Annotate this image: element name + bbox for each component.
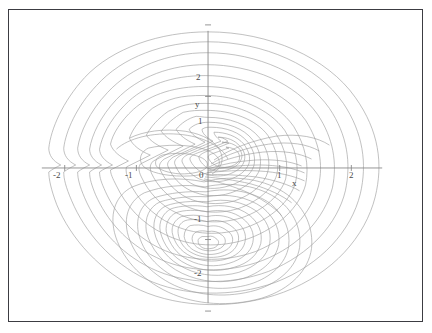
y-tick-label--1: -1 bbox=[194, 214, 202, 224]
contour-lower-09 bbox=[146, 195, 279, 281]
x-tick-label--1: -1 bbox=[125, 170, 133, 180]
contour-upper-07 bbox=[126, 95, 297, 233]
y-tick-label-2: 2 bbox=[196, 72, 201, 82]
contour-lower-06 bbox=[113, 178, 312, 303]
x-tick-label-2: 2 bbox=[349, 170, 354, 180]
origin-label: 0 bbox=[199, 170, 204, 180]
x-tick-label-1: 1 bbox=[277, 170, 282, 180]
x-axis-label: x bbox=[292, 178, 297, 188]
y-tick-label--2: -2 bbox=[194, 268, 202, 278]
contour-origin-arc-2 bbox=[208, 165, 305, 173]
contour-plot-canvas bbox=[9, 10, 422, 321]
contour-upper-15 bbox=[199, 142, 242, 171]
x-tick-label--2: -2 bbox=[53, 170, 61, 180]
contour-lower-11 bbox=[160, 206, 261, 271]
contour-pocket-outer bbox=[140, 145, 219, 176]
contour-lower-16 bbox=[192, 231, 225, 251]
y-axis-label: y bbox=[195, 99, 200, 109]
plot-frame: -2 -1 1 2 2 1 -1 -2 0 y x bbox=[8, 9, 423, 322]
y-tick-label-1: 1 bbox=[198, 116, 203, 126]
